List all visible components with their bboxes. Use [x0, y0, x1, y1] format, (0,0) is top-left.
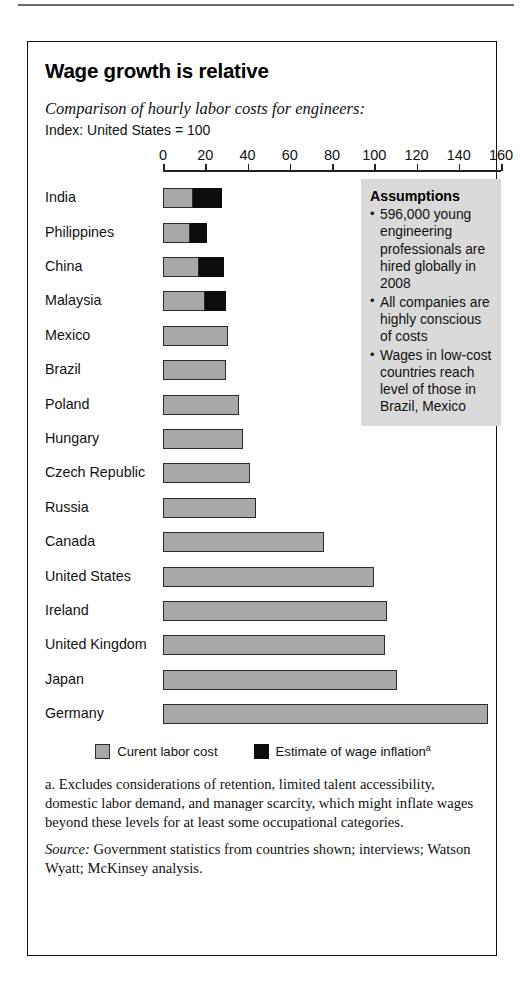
bar-segment-labor-cost [163, 188, 193, 208]
x-tick-mark-100 [374, 164, 376, 171]
assumptions-box: Assumptions 596,000 young engineering pr… [361, 179, 501, 426]
bar-row: Czech Republic [45, 457, 481, 491]
bar-segment-wage-inflation [199, 257, 224, 277]
x-tick-label-80: 80 [324, 147, 340, 163]
x-tick-label-100: 100 [362, 147, 386, 163]
chart-plot-area: 020406080100120140160 IndiaPhilippinesCh… [45, 147, 481, 732]
bar-row: Germany [45, 698, 481, 732]
chart-legend: Curent labor costEstimate of wage inflat… [45, 738, 481, 764]
category-label: Mexico [45, 327, 90, 343]
x-tick-label-120: 120 [404, 147, 428, 163]
legend-label: Estimate of wage inflationa [276, 743, 431, 759]
bar-row: Ireland [45, 595, 481, 629]
category-label: Poland [45, 396, 90, 412]
page-top-rule [0, 0, 526, 9]
bar-segment-labor-cost [163, 291, 205, 311]
legend-item: Estimate of wage inflationa [254, 743, 431, 759]
x-tick-mark-60 [290, 164, 292, 171]
footnote-a: a. Excludes considerations of retention,… [45, 775, 481, 831]
assumptions-heading: Assumptions [370, 188, 492, 204]
chart-subtitle: Comparison of hourly labor costs for eng… [45, 100, 481, 119]
x-tick-label-40: 40 [239, 147, 255, 163]
legend-label: Curent labor cost [117, 744, 217, 759]
bar-segment-wage-inflation [193, 188, 223, 208]
exhibit-frame: Wage growth is relative Comparison of ho… [27, 41, 497, 956]
x-tick-mark-120 [417, 164, 419, 171]
x-tick-mark-0 [163, 164, 165, 171]
category-label: United Kingdom [45, 636, 147, 652]
category-label: Ireland [45, 602, 89, 618]
bar-segment-labor-cost [163, 463, 250, 483]
category-label: Russia [45, 499, 89, 515]
chart-index-note: Index: United States = 100 [45, 122, 481, 139]
bar-row: United States [45, 561, 481, 595]
bar-row: Hungary [45, 423, 481, 457]
page-title: Wage growth is relative [45, 60, 481, 83]
bar-row: Japan [45, 664, 481, 698]
bar-segment-labor-cost [163, 670, 397, 690]
bar-segment-labor-cost [163, 429, 243, 449]
bar-segment-labor-cost [163, 635, 385, 655]
x-tick-label-60: 60 [282, 147, 298, 163]
bar-row: Russia [45, 492, 481, 526]
exhibit-content: Wage growth is relative Comparison of ho… [28, 42, 496, 955]
x-tick-mark-140 [459, 164, 461, 171]
bar-row: Canada [45, 526, 481, 560]
assumption-item: 596,000 young engineering professionals … [370, 206, 492, 291]
legend-swatch-labor-cost [95, 744, 110, 759]
category-label: China [45, 258, 82, 274]
category-label: Brazil [45, 361, 81, 377]
bar-row: United Kingdom [45, 629, 481, 663]
legend-swatch-wage-inflation [254, 744, 269, 759]
legend-footnote-marker: a [426, 743, 431, 753]
category-label: Japan [45, 671, 84, 687]
assumption-item: All companies are highly conscious of co… [370, 294, 492, 345]
x-tick-label-20: 20 [197, 147, 213, 163]
x-tick-mark-160 [501, 164, 503, 171]
category-label: Malaysia [45, 292, 101, 308]
bar-segment-labor-cost [163, 704, 488, 724]
bar-segment-labor-cost [163, 326, 228, 346]
bar-segment-wage-inflation [190, 223, 207, 243]
bar-segment-labor-cost [163, 257, 199, 277]
category-label: Germany [45, 705, 104, 721]
x-tick-label-140: 140 [447, 147, 471, 163]
x-tick-mark-40 [248, 164, 250, 171]
source-note: Source: Government statistics from count… [45, 840, 481, 877]
bar-segment-labor-cost [163, 360, 226, 380]
bar-segment-labor-cost [163, 223, 190, 243]
category-label: Czech Republic [45, 464, 145, 480]
bar-segment-labor-cost [163, 567, 374, 587]
bar-segment-wage-inflation [205, 291, 226, 311]
bar-segment-labor-cost [163, 498, 256, 518]
x-tick-label-0: 0 [159, 147, 167, 163]
bar-segment-labor-cost [163, 532, 324, 552]
x-axis: 020406080100120140160 [45, 147, 481, 178]
source-text: Government statistics from countries sho… [45, 841, 471, 876]
legend-item: Curent labor cost [95, 744, 217, 759]
assumption-item: Wages in low-cost countries reach level … [370, 347, 492, 415]
category-label: Canada [45, 533, 95, 549]
x-tick-mark-20 [205, 164, 207, 171]
assumptions-list: 596,000 young engineering professionals … [370, 206, 492, 415]
bar-segment-labor-cost [163, 601, 387, 621]
chart-notes: a. Excludes considerations of retention,… [45, 775, 481, 877]
category-label: Hungary [45, 430, 99, 446]
category-label: Philippines [45, 224, 114, 240]
category-label: United States [45, 568, 131, 584]
bar-segment-labor-cost [163, 395, 239, 415]
source-label: Source: [45, 841, 90, 857]
category-label: India [45, 189, 76, 205]
x-tick-mark-80 [332, 164, 334, 171]
x-tick-label-160: 160 [489, 147, 513, 163]
